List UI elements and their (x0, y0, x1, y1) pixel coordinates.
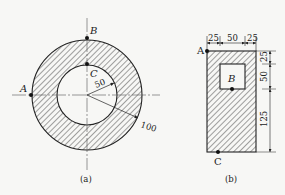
point-a-label: A (196, 45, 205, 56)
point-b-dot (230, 87, 234, 91)
dim-top-3: 25 (247, 33, 258, 43)
point-b-label: B (227, 73, 235, 84)
point-c-dot (216, 150, 220, 154)
point-a-dot (205, 49, 209, 53)
rect-hatch (0, 0, 285, 195)
dim-side-3: 125 (259, 111, 269, 127)
dim-top-2: 50 (227, 33, 238, 43)
dim-top-1: 25 (208, 33, 219, 43)
dim-side-2: 50 (259, 71, 269, 82)
point-c-label: C (214, 156, 222, 167)
figure-b: 25 50 25 25 50 125 A B C (b) (0, 0, 285, 195)
caption-b: (b) (225, 174, 237, 184)
diagram-canvas: 50 100 A B C (a) 25 50 25 25 50 (0, 0, 285, 195)
dim-side-1: 25 (259, 51, 269, 62)
